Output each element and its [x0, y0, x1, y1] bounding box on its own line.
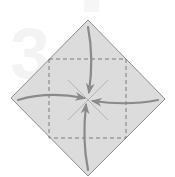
- origami-diagram: [0, 0, 175, 177]
- paper-square: [11, 20, 165, 176]
